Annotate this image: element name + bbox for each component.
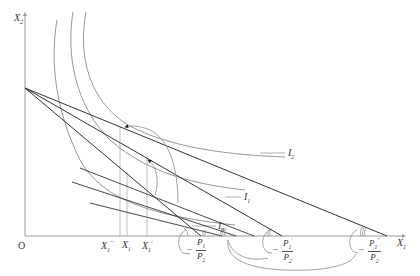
budget-line-p1-double-prime [25,88,387,236]
slope-label-p1-double-prime: – P1′′ P2 [368,238,381,265]
curve-label-i2: I2 [288,148,294,160]
compensated-budget-lines [72,168,254,236]
compensated-line-3 [90,203,222,236]
compensated-line-1 [72,182,236,236]
quantity-label-x1: X1 [122,240,131,252]
consumer-choice-diagram [0,0,420,276]
origin-label: O [18,241,25,251]
slope-label-p1-prime: – P1′ P2 [282,238,293,265]
compensated-line-2 [80,168,254,236]
quantity-guides [120,126,147,236]
y-axis-label: X2 [14,13,23,25]
indifference-curves [54,12,285,225]
slope-label-p1: – P1 P2 [196,238,206,264]
quantity-label-x1-prime: X1′ [142,240,152,253]
quantity-label-x1-double-prime: X1′′ [101,240,113,253]
curve-label-i1: I1 [244,192,250,204]
adjustment-paths [125,126,178,203]
indifference-curve-i0 [54,20,235,225]
indifference-curve-i1 [71,12,245,190]
path-to-i1 [148,160,157,195]
path-to-i2 [125,126,178,203]
budget-line-p1-prime [25,88,282,236]
x-axis-label: X1 [397,238,406,250]
axes [25,14,404,236]
indifference-curve-i2 [83,12,285,157]
budget-lines [25,88,387,236]
budget-line-p1 [25,88,201,236]
curve-label-i0: I0 [218,221,224,233]
